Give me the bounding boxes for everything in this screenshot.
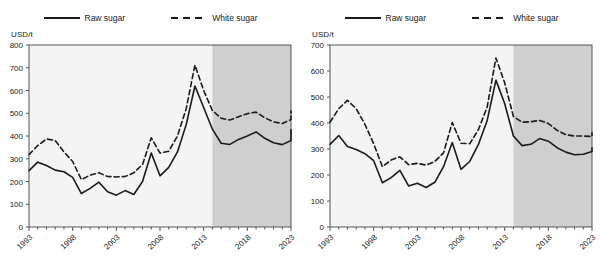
x-tick-label: 2018 (233, 232, 253, 251)
chart-panel-right: Raw sugar White sugar USD/t 010020030040… (301, 0, 602, 265)
y-tick-label: 300 (311, 145, 325, 154)
y-tick-label: 600 (10, 87, 24, 96)
sugar-price-figure: Raw sugar White sugar USD/t 010020030040… (0, 0, 602, 265)
chart-panel-left: Raw sugar White sugar USD/t 010020030040… (0, 0, 301, 265)
y-tick-label: 500 (10, 109, 24, 118)
x-tick-label: 2008 (146, 232, 166, 251)
x-tick-label: 2023 (578, 232, 598, 251)
x-tick-label: 2013 (190, 232, 210, 251)
y-tick-label: 700 (311, 41, 325, 50)
x-tick-label: 2003 (403, 232, 423, 251)
projection-shading-region (212, 45, 291, 227)
x-tick-label: 2013 (491, 232, 511, 251)
plot-area-left: 0100200300400500600700800199319982003200… (0, 0, 301, 265)
y-tick-label: 0 (320, 223, 325, 232)
x-tick-label: 1993 (316, 232, 336, 251)
y-tick-label: 600 (311, 67, 325, 76)
y-tick-label: 700 (10, 64, 24, 73)
y-tick-label: 200 (311, 171, 325, 180)
y-tick-label: 300 (10, 155, 24, 164)
y-tick-label: 800 (10, 41, 24, 50)
y-tick-label: 100 (10, 200, 24, 209)
plot-area-right: 0100200300400500600700199319982003200820… (301, 0, 602, 265)
x-tick-label: 2023 (277, 232, 297, 251)
y-tick-label: 100 (311, 197, 325, 206)
x-tick-label: 1998 (360, 232, 380, 251)
y-tick-label: 500 (311, 93, 325, 102)
y-tick-label: 400 (10, 132, 24, 141)
y-tick-label: 0 (19, 223, 24, 232)
x-tick-label: 1998 (59, 232, 79, 251)
y-tick-label: 200 (10, 178, 24, 187)
x-tick-label: 2018 (534, 232, 554, 251)
y-tick-label: 400 (311, 119, 325, 128)
x-tick-label: 2003 (102, 232, 122, 251)
x-tick-label: 1993 (15, 232, 35, 251)
x-tick-label: 2008 (447, 232, 467, 251)
